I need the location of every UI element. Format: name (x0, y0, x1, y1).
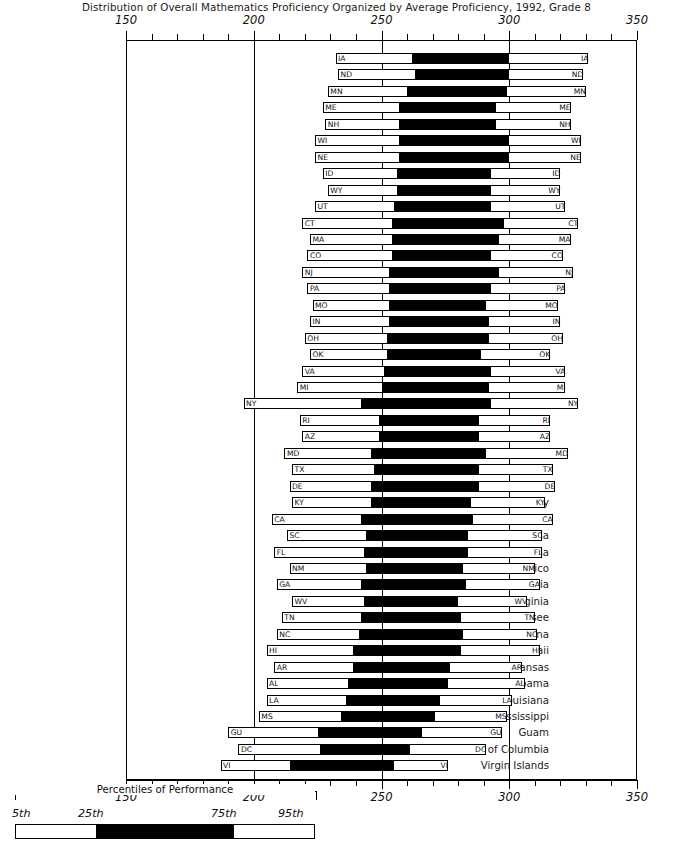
bar-code-left: IA (336, 53, 399, 64)
bar-range-25th-75th (290, 760, 395, 771)
percentile-bar-nj[interactable]: NJNJ (0, 267, 673, 278)
percentile-bar-nm[interactable]: NMNM (0, 563, 673, 574)
percentile-bar-tn[interactable]: TNTN (0, 612, 673, 623)
percentile-bar-ri[interactable]: RIRI (0, 415, 673, 426)
percentile-bar-al[interactable]: ALAL (0, 678, 673, 689)
x-axis-label-top-200: 200 (243, 13, 265, 27)
legend-tick-5th: 5th (12, 807, 31, 820)
x-axis-label-top-250: 250 (371, 13, 393, 27)
bar-range-25th-75th (374, 464, 479, 475)
percentile-bar-dc[interactable]: DCDC (0, 744, 673, 755)
percentile-bar-ia[interactable]: IAIA (0, 53, 673, 64)
percentile-bar-nd[interactable]: NDND (0, 69, 673, 80)
bar-range-25th-75th (382, 382, 489, 393)
bar-code-left: TX (292, 464, 355, 475)
percentile-bar-md[interactable]: MDMD (0, 448, 673, 459)
percentile-bar-ut[interactable]: UTUT (0, 201, 673, 212)
percentile-bar-id[interactable]: IDID (0, 168, 673, 179)
percentile-bar-nh[interactable]: NHNH (0, 119, 673, 130)
bar-range-25th-75th (389, 300, 486, 311)
bar-code-right: ND (523, 69, 586, 80)
bar-range-25th-75th (361, 398, 491, 409)
x-axis-label-top-150: 150 (115, 13, 137, 27)
bar-code-left: MI (297, 382, 360, 393)
percentile-bar-in[interactable]: ININ (0, 316, 673, 327)
percentile-bar-wy[interactable]: WYWY (0, 185, 673, 196)
percentile-bar-gu[interactable]: GUGU (0, 727, 673, 738)
bar-code-left: CT (302, 218, 365, 229)
percentile-bar-wi[interactable]: WIWI (0, 135, 673, 146)
percentile-bar-hi[interactable]: HIHI (0, 645, 673, 656)
percentile-bar-sc[interactable]: SCSC (0, 530, 673, 541)
percentile-bar-ny[interactable]: NYNY (0, 398, 673, 409)
bar-range-25th-75th (359, 629, 464, 640)
percentile-bar-mn[interactable]: MNMN (0, 86, 673, 97)
bar-code-right: AZ (490, 431, 553, 442)
percentile-bar-oh[interactable]: OHOH (0, 333, 673, 344)
percentile-bar-ma[interactable]: MAMA (0, 234, 673, 245)
percentile-bar-pa[interactable]: PAPA (0, 283, 673, 294)
bar-code-right: MN (526, 86, 589, 97)
bar-range-25th-75th (399, 152, 509, 163)
bar-code-left: ID (323, 168, 386, 179)
percentile-bar-ct[interactable]: CTCT (0, 218, 673, 229)
x-tick-top-210 (279, 34, 280, 40)
x-tick-top-200 (254, 31, 255, 40)
percentile-bar-la[interactable]: LALA (0, 695, 673, 706)
bar-code-left: ND (338, 69, 401, 80)
bar-range-25th-75th (353, 645, 460, 656)
percentile-bar-ms[interactable]: MSMS (0, 711, 673, 722)
bar-code-right: RI (490, 415, 553, 426)
percentile-bar-az[interactable]: AZAZ (0, 431, 673, 442)
bar-range-25th-75th (346, 695, 441, 706)
percentile-bar-ar[interactable]: ARAR (0, 662, 673, 673)
bar-range-25th-75th (407, 86, 507, 97)
percentile-bar-me[interactable]: MEME (0, 102, 673, 113)
bar-code-right: TN (475, 612, 538, 623)
percentile-bar-ca[interactable]: CACA (0, 514, 673, 525)
x-tick-top-250 (382, 31, 383, 40)
x-axis-label-top-300: 300 (498, 13, 520, 27)
bar-code-left: NM (290, 563, 353, 574)
bar-code-right: FL (482, 547, 545, 558)
x-tick-top-180 (203, 34, 204, 40)
bar-range-25th-75th (320, 744, 409, 755)
bar-code-right: DC (426, 744, 489, 755)
bar-code-left: VI (221, 760, 284, 771)
bar-code-left: OK (310, 349, 373, 360)
bar-range-25th-75th (389, 283, 491, 294)
x-axis-label-top-350: 350 (626, 13, 648, 27)
percentile-bar-de[interactable]: DEDE (0, 481, 673, 492)
x-tick-top-240 (356, 34, 357, 40)
bar-code-left: CO (307, 250, 370, 261)
bar-code-left: NE (315, 152, 378, 163)
bar-range-25th-75th (412, 53, 509, 64)
percentile-bar-va[interactable]: VAVA (0, 366, 673, 377)
percentile-bar-ok[interactable]: OKOK (0, 349, 673, 360)
x-tick-top-300 (509, 31, 510, 40)
percentile-bar-mi[interactable]: MIMI (0, 382, 673, 393)
percentile-bar-wv[interactable]: WVWV (0, 596, 673, 607)
bar-code-right: IA (528, 53, 591, 64)
bar-range-25th-75th (399, 135, 509, 146)
bar-code-right: CO (503, 250, 566, 261)
bar-code-left: AR (274, 662, 337, 673)
x-tick-top-350 (637, 31, 638, 40)
x-tick-top-160 (152, 34, 153, 40)
bar-code-right: MI (505, 382, 568, 393)
percentile-bar-tx[interactable]: TXTX (0, 464, 673, 475)
bar-code-left: WY (328, 185, 391, 196)
bar-range-25th-75th (371, 497, 471, 508)
bar-code-right: NY (518, 398, 581, 409)
x-tick-top-230 (330, 34, 331, 40)
percentile-bar-fl[interactable]: FLFL (0, 547, 673, 558)
percentile-bar-co[interactable]: COCO (0, 250, 673, 261)
percentile-bar-nc[interactable]: NCNC (0, 629, 673, 640)
percentile-bar-ky[interactable]: KYKY (0, 497, 673, 508)
percentile-bar-ne[interactable]: NENE (0, 152, 673, 163)
percentile-bar-ga[interactable]: GAGA (0, 579, 673, 590)
legend-caption: Percentiles of Performance (15, 784, 315, 795)
bar-code-right: MO (498, 300, 561, 311)
percentile-bar-vi[interactable]: VIVI (0, 760, 673, 771)
percentile-bar-mo[interactable]: MOMO (0, 300, 673, 311)
